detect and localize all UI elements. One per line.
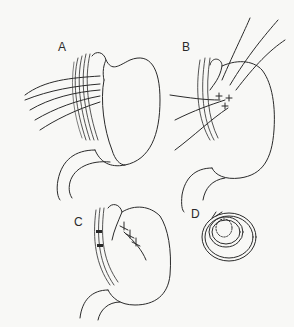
panel-a-drawing: [25, 53, 160, 200]
illustration-artwork: [0, 0, 294, 327]
panel-label-c: C: [74, 216, 83, 228]
surgical-illustration: A B C D: [0, 0, 294, 327]
panel-label-d: D: [191, 208, 200, 220]
panel-label-b: B: [182, 41, 190, 53]
panel-d-drawing: [202, 212, 256, 261]
panel-c-drawing: [80, 205, 171, 320]
panel-label-a: A: [58, 41, 66, 53]
